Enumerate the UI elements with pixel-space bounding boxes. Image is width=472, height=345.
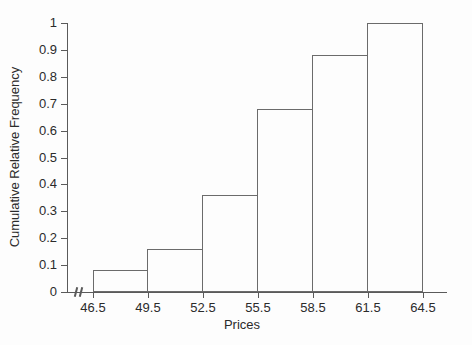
y-tick-label: 1 [17, 15, 57, 31]
y-tick-label: 0 [17, 284, 57, 300]
y-tick-label: 0.4 [17, 176, 57, 192]
y-tick [61, 104, 67, 105]
y-tick-label: 0.1 [17, 257, 57, 273]
bar [312, 55, 368, 292]
x-tick [423, 293, 424, 298]
x-axis-line [67, 292, 447, 293]
y-tick [61, 158, 67, 159]
bar [257, 109, 313, 292]
x-tick [93, 293, 94, 298]
y-tick-label: 0.3 [17, 203, 57, 219]
y-tick-label: 0.6 [17, 123, 57, 139]
x-tick [368, 293, 369, 298]
x-tick-label: 52.5 [181, 300, 225, 316]
x-tick-label: 58.5 [291, 300, 335, 316]
y-tick-label: 0.8 [17, 69, 57, 85]
y-tick [61, 77, 67, 78]
x-tick [313, 293, 314, 298]
y-tick [61, 265, 67, 266]
x-tick [203, 293, 204, 298]
y-tick [61, 50, 67, 51]
y-tick [61, 292, 67, 293]
y-tick-label: 0.9 [17, 42, 57, 58]
x-tick [148, 293, 149, 298]
x-tick-label: 61.5 [346, 300, 390, 316]
y-tick [61, 131, 67, 132]
y-axis-line [67, 23, 68, 293]
bar [367, 23, 423, 292]
y-tick [61, 238, 67, 239]
x-tick-label: 49.5 [126, 300, 170, 316]
x-axis-title: Prices [182, 317, 302, 333]
y-tick [61, 184, 67, 185]
y-tick-label: 0.2 [17, 230, 57, 246]
y-tick-label: 0.7 [17, 96, 57, 112]
x-tick-label: 64.5 [401, 300, 445, 316]
x-tick-label: 55.5 [236, 300, 280, 316]
y-tick-label: 0.5 [17, 150, 57, 166]
x-tick-label: 46.5 [71, 300, 115, 316]
y-tick [61, 23, 67, 24]
x-tick [258, 293, 259, 298]
bar [202, 195, 258, 292]
y-tick [61, 211, 67, 212]
bar [147, 249, 203, 292]
cumulative-frequency-chart: Cumulative Relative Frequency 00.10.20.3… [0, 0, 472, 345]
bar [93, 270, 148, 292]
